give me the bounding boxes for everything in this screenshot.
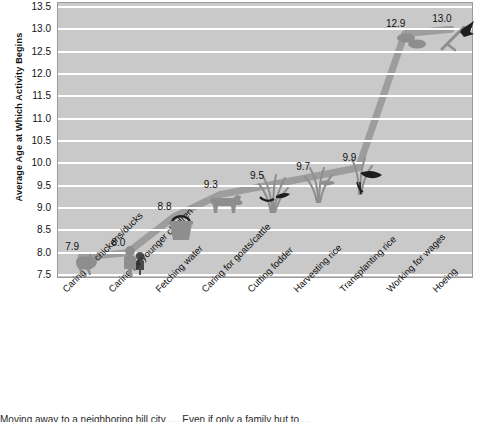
gridline [58, 140, 472, 142]
gridline [58, 6, 472, 8]
y-tick-label: 8.0 [37, 246, 51, 257]
water-bucket-icon [166, 207, 196, 245]
y-tick-label: 8.5 [37, 224, 51, 235]
data-point-label: 12.9 [386, 18, 405, 29]
x-axis-tick-labels: Caring for chickens/ducksCaring for youn… [0, 279, 482, 389]
children-icon [121, 245, 147, 279]
gridline [58, 118, 472, 120]
wages-coins-icon [395, 31, 429, 55]
chicken-icon [71, 251, 105, 281]
y-tick-label: 11.5 [32, 90, 51, 101]
y-tick-label: 13.0 [32, 23, 51, 34]
data-point-label: 9.3 [204, 179, 218, 190]
data-point-label: 7.9 [65, 241, 79, 252]
y-tick-label: 12.5 [32, 45, 51, 56]
data-point-label: 8.8 [158, 201, 172, 212]
data-point-label: 8.0 [111, 237, 125, 248]
caption-text: Moving away to a neighboring hill city .… [0, 414, 482, 422]
chart-container: Average Age at Which Activity Begins 13.… [0, 0, 482, 422]
gridline [58, 252, 472, 254]
data-point-label: 9.7 [296, 161, 310, 172]
y-tick-label: 12.0 [32, 68, 51, 79]
y-tick-label: 11.0 [32, 112, 51, 123]
page-caption: Moving away to a neighboring hill city .… [0, 414, 482, 422]
data-point-label: 9.9 [342, 152, 356, 163]
y-tick-label: 9.0 [37, 202, 51, 213]
cattle-icon [207, 191, 247, 217]
gridline [58, 162, 472, 164]
data-point-label: 13.0 [432, 13, 451, 24]
y-tick-label: 9.5 [37, 179, 51, 190]
y-tick-label: 10.5 [32, 135, 51, 146]
gridline [58, 73, 472, 75]
hoe-icon [440, 19, 476, 57]
data-point-label: 9.5 [250, 170, 264, 181]
y-tick-label: 13.5 [32, 1, 51, 12]
y-tick-label: 7.5 [37, 269, 51, 280]
y-tick-label: 10.0 [32, 157, 51, 168]
gridline [58, 95, 472, 97]
y-axis-tick-labels: 13.513.012.512.011.511.010.510.09.59.08.… [0, 0, 57, 280]
